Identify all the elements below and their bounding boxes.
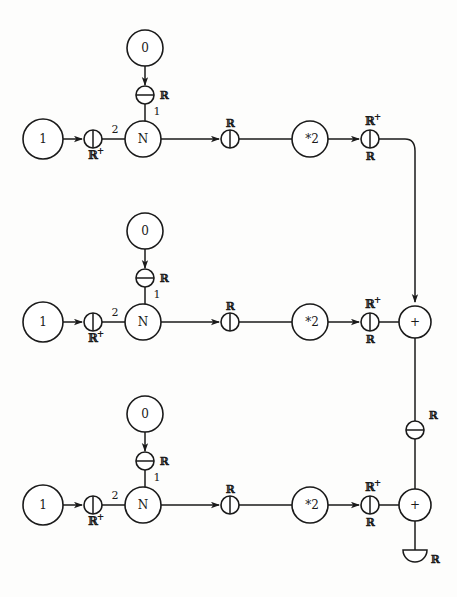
row-2-top-gate-label: ℝ (159, 272, 169, 285)
row-2-mid-gate-label: ℝ (225, 300, 235, 313)
row-1-top-gate-label: ℝ (159, 89, 169, 102)
row-2-n-label: N (138, 315, 149, 329)
row-1-output-gate-bottom-label: ℝ (365, 150, 375, 163)
dataflow-diagram-svg: 1ℝ+20ℝ1Nℝ*2ℝ+ℝ1ℝ+20ℝ1Nℝ*2ℝ+ℝ1ℝ+20ℝ1Nℝ*2ℝ… (0, 0, 457, 597)
row-2-output-gate-top-label-sup: + (374, 295, 382, 305)
row-1-n-port-left-label: 2 (112, 123, 119, 136)
adder-2-label: + (410, 498, 420, 512)
row-3-n-port-left-label: 2 (112, 489, 119, 502)
row-3-n-port-top-label: 1 (154, 471, 161, 484)
row-1-output-gate-top-label-sup: + (374, 112, 382, 122)
row-3-n-label: N (138, 498, 149, 512)
row-3-const-one-label: 1 (39, 498, 47, 512)
row-1-n-label: N (138, 132, 149, 146)
row-3-output-gate-top-label-sup: + (374, 478, 382, 488)
row-3-const-zero-label: 0 (141, 407, 149, 421)
row-3-mid-gate-label: ℝ (225, 483, 235, 496)
row-2-n-port-left-label: 2 (112, 306, 119, 319)
row-1-const-zero-label: 0 (141, 41, 149, 55)
diagram-canvas: 1ℝ+20ℝ1Nℝ*2ℝ+ℝ1ℝ+20ℝ1Nℝ*2ℝ+ℝ1ℝ+20ℝ1Nℝ*2ℝ… (0, 0, 457, 597)
row-2-input-gate-label-sup: + (97, 329, 105, 339)
row-3-pow-label: *2 (305, 498, 319, 512)
row-3-output-gate-bottom-label: ℝ (365, 516, 375, 529)
row-2-const-zero-label: 0 (141, 224, 149, 238)
wire-row1-to-adder1 (379, 139, 415, 302)
row-3-input-gate-label-sup: + (97, 512, 105, 522)
row-1-input-gate-label-sup: + (97, 146, 105, 156)
row-1-const-one-label: 1 (39, 132, 47, 146)
row-2-const-one-label: 1 (39, 315, 47, 329)
adder-1-label: + (410, 315, 420, 329)
sink-label: ℝ (430, 553, 440, 566)
row-1-mid-gate-label: ℝ (225, 117, 235, 130)
row-2-pow-label: *2 (305, 315, 319, 329)
row-2-output-gate-bottom-label: ℝ (365, 333, 375, 346)
link-gate-label: ℝ (428, 409, 438, 422)
row-2-n-port-top-label: 1 (154, 288, 161, 301)
row-1-n-port-top-label: 1 (154, 105, 161, 118)
row-3-top-gate-label: ℝ (159, 455, 169, 468)
sink-half-disc[interactable] (403, 550, 427, 562)
row-1-pow-label: *2 (305, 132, 319, 146)
